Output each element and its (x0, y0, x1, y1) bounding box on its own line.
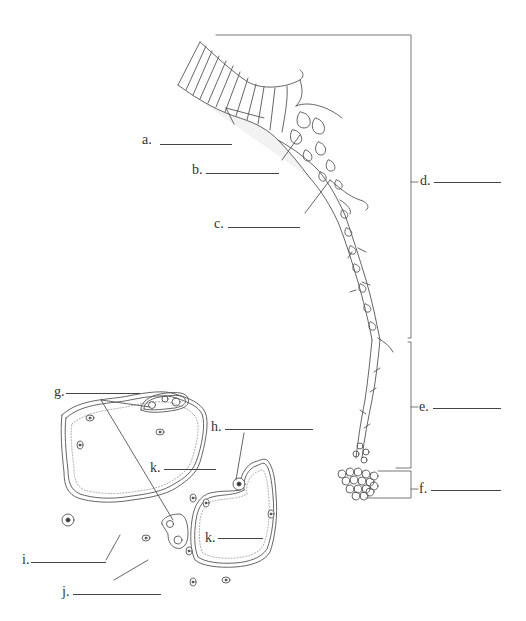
label-e: e. (419, 400, 429, 414)
answer-blank-k-upper[interactable] (164, 469, 216, 470)
label-i: i. (22, 553, 29, 567)
answer-blank-d[interactable] (434, 182, 501, 183)
answer-blank-e[interactable] (433, 408, 501, 409)
answer-blank-f[interactable] (431, 490, 501, 491)
answer-blank-g[interactable] (66, 393, 140, 394)
answer-blank-i[interactable] (31, 562, 106, 563)
label-b: b. (192, 163, 203, 177)
answer-blank-c[interactable] (228, 227, 300, 228)
bronchus-drawing (178, 42, 393, 463)
label-h: h. (211, 420, 222, 434)
alveoli-section-drawing (61, 392, 276, 586)
label-k-lower: k. (205, 531, 216, 545)
alveolar-cluster-drawing (338, 468, 378, 500)
label-g: g. (54, 385, 65, 399)
answer-blank-b[interactable] (206, 173, 279, 174)
answer-blank-h[interactable] (225, 429, 313, 430)
label-a: a. (142, 133, 152, 147)
answer-blank-a[interactable] (160, 144, 232, 145)
label-f: f. (419, 482, 427, 496)
answer-blank-j[interactable] (73, 594, 161, 595)
label-d: d. (420, 174, 431, 188)
respiratory-diagram (0, 0, 526, 621)
label-j: j. (62, 585, 69, 599)
label-c: c. (214, 217, 224, 231)
answer-blank-k-lower[interactable] (218, 538, 263, 539)
label-k-upper: k. (150, 461, 161, 475)
